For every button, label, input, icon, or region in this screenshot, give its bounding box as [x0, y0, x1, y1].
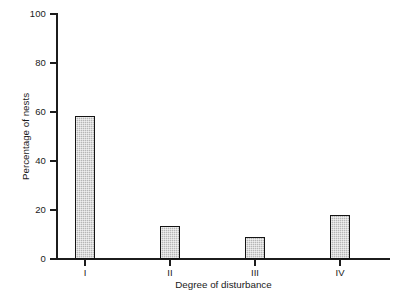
y-tick-mark [50, 62, 56, 63]
bar-i [75, 116, 95, 259]
x-tick-mark [169, 260, 170, 266]
bar-iv [330, 215, 350, 259]
x-tick-mark [254, 260, 255, 266]
x-axis-title: Degree of disturbance [57, 279, 390, 290]
y-axis-title: Percentage of nests [20, 67, 31, 207]
y-tick-label: 20 [6, 205, 46, 215]
y-tick-label: 0 [6, 254, 46, 264]
x-tick-label: IV [320, 267, 360, 278]
x-tick-label: I [65, 267, 105, 278]
x-tick-mark [84, 260, 85, 266]
x-tick-mark [339, 260, 340, 266]
y-tick-mark [50, 209, 56, 210]
x-tick-label: II [150, 267, 190, 278]
y-tick-label: 100 [6, 9, 46, 19]
bar-chart-figure: 020406080100 IIIIIIIV Degree of disturba… [0, 0, 398, 298]
bar-ii [160, 226, 180, 259]
y-tick-mark [50, 111, 56, 112]
y-tick-mark [50, 160, 56, 161]
y-axis-line [56, 13, 58, 260]
y-tick-mark [50, 13, 56, 14]
bar-iii [245, 237, 265, 259]
y-tick-mark [50, 258, 56, 259]
x-tick-label: III [235, 267, 275, 278]
